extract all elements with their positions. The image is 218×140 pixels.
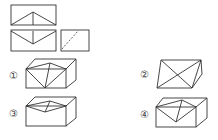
three-view-diagram: ① ② ③ ④ bbox=[0, 0, 218, 140]
option-4-label: ④ bbox=[140, 109, 149, 120]
top-view bbox=[11, 5, 56, 25]
side-view bbox=[61, 30, 89, 51]
option-3-label: ③ bbox=[9, 108, 18, 119]
option-3-figure[interactable]: ③ bbox=[9, 97, 76, 126]
front-view bbox=[11, 30, 56, 51]
option-2-label: ② bbox=[140, 69, 149, 80]
option-1-label: ① bbox=[9, 70, 18, 81]
option-2-figure[interactable]: ② bbox=[140, 60, 202, 88]
option-1-figure[interactable]: ① bbox=[9, 59, 76, 88]
option-4-figure[interactable]: ④ bbox=[140, 98, 207, 127]
